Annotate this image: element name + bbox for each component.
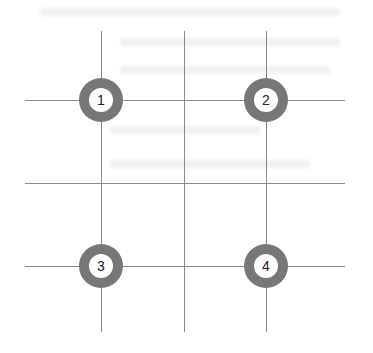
marker-label: 4: [254, 254, 278, 278]
marker-2: 2: [244, 78, 288, 122]
marker-label: 2: [254, 88, 278, 112]
background-bleed-mark: [110, 160, 310, 168]
marker-label: 3: [89, 254, 113, 278]
grid-diagram: 1 2 3 4: [0, 0, 373, 353]
grid-vertical-line-2: [184, 31, 185, 332]
marker-4: 4: [244, 244, 288, 288]
background-bleed-mark: [110, 126, 260, 134]
background-bleed-mark: [120, 66, 330, 74]
grid-horizontal-line-3: [25, 266, 345, 267]
grid-horizontal-line-1: [25, 100, 345, 101]
marker-1: 1: [79, 78, 123, 122]
marker-label: 1: [89, 88, 113, 112]
background-bleed-mark: [40, 8, 340, 16]
grid-horizontal-line-2: [25, 183, 345, 184]
marker-3: 3: [79, 244, 123, 288]
background-bleed-mark: [120, 38, 340, 46]
